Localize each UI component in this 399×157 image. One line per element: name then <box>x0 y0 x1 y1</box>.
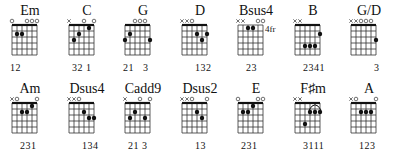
chord-diagram: G/D3 <box>341 0 397 78</box>
fingering-label: 12 <box>10 63 21 73</box>
fingering-label: 13 <box>195 141 206 151</box>
chord-diagram: Em12 <box>2 0 58 78</box>
chord-diagram: Dsus213 <box>172 78 228 156</box>
fingering-label: 21 3 <box>123 63 149 73</box>
fretboard-grid <box>228 78 284 142</box>
fretboard-grid <box>172 78 228 142</box>
chord-diagram: F♯m3111 <box>285 78 341 156</box>
fretboard-grid <box>285 0 341 64</box>
fretboard-grid <box>2 0 58 64</box>
chord-diagram: Bsus44fr23 <box>228 0 284 78</box>
fingering-label: 134 <box>82 141 99 151</box>
fingering-label: 21 3 <box>128 141 148 151</box>
fretboard-grid <box>115 78 171 142</box>
chord-diagram: Dsus4134 <box>59 78 115 156</box>
fingering-label: 3 <box>374 63 380 73</box>
fretboard-grid <box>285 78 341 142</box>
fretboard-grid <box>59 78 115 142</box>
fretboard-grid <box>115 0 171 64</box>
fretboard-grid <box>172 0 228 64</box>
fingering-label: 123 <box>359 141 376 151</box>
fretboard-grid <box>341 78 397 142</box>
fingering-label: 2341 <box>303 63 325 73</box>
fretboard-grid <box>59 0 115 64</box>
chord-diagram: E231 <box>228 78 284 156</box>
fingering-label: 231 <box>241 141 258 151</box>
chord-diagram: B2341 <box>285 0 341 78</box>
fretboard-grid <box>228 0 284 64</box>
chord-diagram: D132 <box>172 0 228 78</box>
fret-position-label: 4fr <box>265 24 276 34</box>
chord-diagram: Am231 <box>2 78 58 156</box>
fretboard-grid <box>2 78 58 142</box>
chord-diagram: C32 1 <box>59 0 115 78</box>
chord-diagram: G21 3 <box>115 0 171 78</box>
fretboard-grid <box>341 0 397 64</box>
fingering-label: 32 1 <box>72 63 92 73</box>
fingering-label: 23 <box>246 63 257 73</box>
fingering-label: 3111 <box>303 141 324 151</box>
fingering-label: 132 <box>195 63 212 73</box>
fingering-label: 231 <box>20 141 37 151</box>
chord-diagram: Cadd921 3 <box>115 78 171 156</box>
chord-diagram: A123 <box>341 78 397 156</box>
